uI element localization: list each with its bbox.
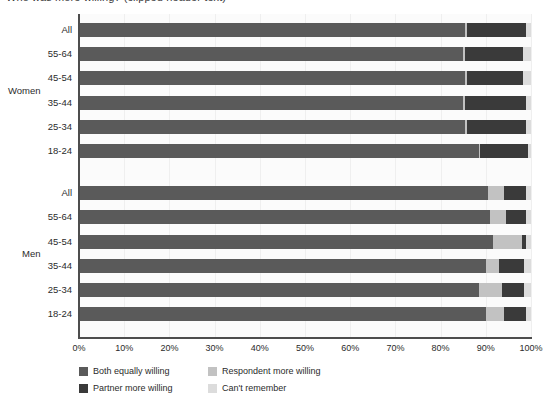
bar-segment-partner-more-willing xyxy=(499,259,524,273)
bar-row xyxy=(79,307,531,321)
bar-segment-both-equally-willing xyxy=(79,186,488,200)
x-tick-80: 80% xyxy=(421,343,461,353)
bar-segment-both-equally-willing xyxy=(79,47,463,61)
y-axis-line xyxy=(78,14,80,337)
bar-segment-partner-more-willing xyxy=(467,23,526,37)
bar-segment-can-t-remember xyxy=(528,144,531,158)
bar-segment-can-t-remember xyxy=(526,210,531,224)
bar-segment-both-equally-willing xyxy=(79,259,486,273)
bar-segment-can-t-remember xyxy=(526,23,531,37)
bar-segment-can-t-remember xyxy=(526,96,531,110)
bar-segment-can-t-remember xyxy=(524,283,531,297)
plot-area xyxy=(79,14,531,337)
bar-segment-can-t-remember xyxy=(526,307,531,321)
category-label-women-18-24: 18-24 xyxy=(12,146,72,156)
legend-label: Can't remember xyxy=(222,383,286,393)
stacked-bar-chart: All55-6445-5435-4425-3418-24All55-6445-5… xyxy=(0,0,557,415)
bar-segment-both-equally-willing xyxy=(79,71,465,85)
bar-segment-can-t-remember xyxy=(526,235,531,249)
bar-row xyxy=(79,283,531,297)
group-label-men: Men xyxy=(22,249,40,259)
category-label-women-55-64: 55-64 xyxy=(12,49,72,59)
legend-swatch-icon xyxy=(79,384,88,393)
bar-segment-both-equally-willing xyxy=(79,283,479,297)
bar-segment-respondent-more-willing xyxy=(479,283,502,297)
bar-segment-partner-more-willing xyxy=(465,96,526,110)
category-label-women-35-44: 35-44 xyxy=(12,98,72,108)
bar-row xyxy=(79,259,531,273)
bar-segment-partner-more-willing xyxy=(467,71,524,85)
category-label-men-35-44: 35-44 xyxy=(12,261,72,271)
legend-label: Partner more willing xyxy=(93,383,173,393)
legend-swatch-icon xyxy=(208,367,217,376)
bar-segment-respondent-more-willing xyxy=(486,307,504,321)
bar-row xyxy=(79,235,531,249)
bar-row xyxy=(79,120,531,134)
chart-legend: Both equally willingRespondent more will… xyxy=(79,366,499,406)
bar-row xyxy=(79,210,531,224)
legend-item-partner-more-willing[interactable]: Partner more willing xyxy=(79,383,173,393)
gridline xyxy=(531,14,532,337)
legend-swatch-icon xyxy=(208,384,217,393)
category-label-women-45-54: 45-54 xyxy=(12,73,72,83)
bar-row xyxy=(79,96,531,110)
bar-row xyxy=(79,71,531,85)
legend-label: Both equally willing xyxy=(93,366,170,376)
x-tick-0: 0% xyxy=(59,343,99,353)
category-label-men-55-64: 55-64 xyxy=(12,212,72,222)
bar-segment-partner-more-willing xyxy=(480,144,527,158)
x-tick-90: 90% xyxy=(466,343,506,353)
x-tick-40: 40% xyxy=(240,343,280,353)
bar-segment-respondent-more-willing xyxy=(488,186,504,200)
category-label-men-45-54: 45-54 xyxy=(12,237,72,247)
bar-segment-partner-more-willing xyxy=(506,210,526,224)
x-tick-50: 50% xyxy=(285,343,325,353)
bar-segment-both-equally-willing xyxy=(79,210,490,224)
group-label-women: Women xyxy=(8,86,41,96)
legend-swatch-icon xyxy=(79,367,88,376)
bar-segment-partner-more-willing xyxy=(465,47,524,61)
bar-segment-both-equally-willing xyxy=(79,96,463,110)
x-tick-30: 30% xyxy=(195,343,235,353)
bar-segment-can-t-remember xyxy=(526,120,531,134)
legend-label: Respondent more willing xyxy=(222,366,321,376)
category-label-women-all: All xyxy=(12,25,72,35)
category-label-men-25-34: 25-34 xyxy=(12,285,72,295)
x-axis-line xyxy=(78,337,532,339)
x-tick-60: 60% xyxy=(330,343,370,353)
bar-segment-partner-more-willing xyxy=(504,307,527,321)
bar-segment-can-t-remember xyxy=(523,71,531,85)
x-tick-10: 10% xyxy=(104,343,144,353)
bar-segment-can-t-remember xyxy=(524,259,531,273)
bar-segment-can-t-remember xyxy=(526,186,531,200)
bar-segment-respondent-more-willing xyxy=(486,259,500,273)
bar-segment-both-equally-willing xyxy=(79,120,465,134)
bar-row xyxy=(79,47,531,61)
bar-segment-both-equally-willing xyxy=(79,307,486,321)
bar-segment-respondent-more-willing xyxy=(493,235,522,249)
category-label-men-all: All xyxy=(12,188,72,198)
bar-segment-both-equally-willing xyxy=(79,235,493,249)
x-tick-20: 20% xyxy=(149,343,189,353)
legend-item-can-t-remember[interactable]: Can't remember xyxy=(208,383,286,393)
x-tick-100: 100% xyxy=(511,343,551,353)
bar-row xyxy=(79,144,531,158)
bar-segment-both-equally-willing xyxy=(79,144,479,158)
category-label-men-18-24: 18-24 xyxy=(12,309,72,319)
bar-row xyxy=(79,186,531,200)
bar-segment-respondent-more-willing xyxy=(490,210,506,224)
bar-segment-partner-more-willing xyxy=(504,186,527,200)
bar-segment-can-t-remember xyxy=(523,47,531,61)
category-label-women-25-34: 25-34 xyxy=(12,122,72,132)
bar-row xyxy=(79,23,531,37)
x-tick-70: 70% xyxy=(375,343,415,353)
bar-segment-partner-more-willing xyxy=(467,120,526,134)
bar-segment-partner-more-willing xyxy=(502,283,525,297)
bar-segment-both-equally-willing xyxy=(79,23,465,37)
legend-item-both-equally-willing[interactable]: Both equally willing xyxy=(79,366,170,376)
legend-item-respondent-more-willing[interactable]: Respondent more willing xyxy=(208,366,321,376)
